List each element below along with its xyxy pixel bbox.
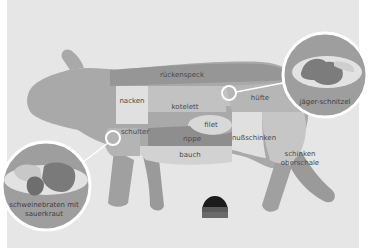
label-rippe: rippe: [183, 135, 201, 143]
label-hufte: hüfte: [251, 94, 269, 102]
german-flag-semicircle-icon: [202, 196, 228, 218]
label-schweinebraten-line1: schweinebraten mit: [9, 201, 79, 209]
label-ruckenspeck: rückenspeck: [160, 71, 205, 79]
pig-illustration: rückenspeck nacken kotelett hüfte filet …: [0, 0, 379, 252]
label-schweinebraten-line2: sauerkraut: [25, 210, 63, 218]
label-schulter: schulter: [121, 128, 149, 136]
label-nusschinken: nußschinken: [232, 134, 276, 142]
label-kotelett: kotelett: [172, 103, 199, 111]
label-filet: filet: [204, 121, 218, 129]
label-jager-schnitzel: jäger-schnitzel: [299, 98, 351, 106]
label-oberschale: oberschale: [281, 159, 319, 167]
label-schinken: schinken: [285, 150, 316, 158]
label-nacken: nacken: [119, 97, 144, 105]
pork-cuts-diagram: rückenspeck nacken kotelett hüfte filet …: [0, 0, 379, 252]
label-bauch: bauch: [179, 151, 200, 159]
